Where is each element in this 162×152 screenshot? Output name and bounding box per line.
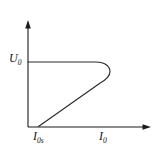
characteristic-curve-plot <box>0 0 162 152</box>
x-axis-label: I0 <box>99 130 107 142</box>
characteristic-curve-path <box>28 62 110 127</box>
x-axis-arrow-icon <box>143 124 152 130</box>
y-axis-arrow-icon <box>25 20 31 29</box>
y-axis-label: U0 <box>9 52 21 64</box>
x-axis-tick-label-i0s: I0s <box>33 130 44 142</box>
y-axis-label-subscript: 0 <box>18 58 22 67</box>
figure-container: U0 I0s I0 <box>0 0 162 152</box>
x-axis-tick-label-subscript: 0s <box>37 136 44 145</box>
x-axis-label-subscript: 0 <box>103 136 107 145</box>
y-axis-label-symbol: U <box>9 51 18 65</box>
